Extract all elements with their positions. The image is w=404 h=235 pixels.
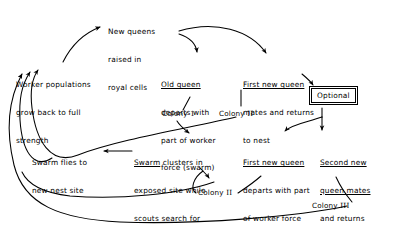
colony-3-word: Colony bbox=[312, 201, 338, 210]
first-queen-departs-line-1: First new queen bbox=[243, 158, 317, 167]
colony-1-numeral: 1 bbox=[190, 109, 195, 118]
node-second-new-queen-mates: Second new queen mates and returns to ne… bbox=[320, 140, 371, 235]
worker-populations-line-2: grow back to full bbox=[16, 108, 91, 117]
worker-populations-line-1: Worker populations bbox=[16, 80, 91, 89]
second-queen-line-3: and returns bbox=[320, 214, 371, 223]
new-queens-line-1: New queens bbox=[108, 27, 155, 36]
first-queen-mates-line-2: mates and returns bbox=[243, 108, 314, 117]
optional-badge[interactable]: Optional bbox=[309, 86, 358, 105]
colony-2-bottom-word: Colony bbox=[198, 188, 224, 197]
swarm-clusters-underline: Swarm bbox=[134, 158, 160, 167]
swarm-clusters-line-1: Swarm clusters in bbox=[134, 158, 206, 167]
first-queen-departs-line-2: departs with part bbox=[243, 186, 317, 195]
colony-2-top-numeral: II bbox=[247, 109, 253, 118]
edge-newqueens-to-firstqueenmates bbox=[179, 27, 266, 53]
second-queen-line-2: queen mates bbox=[320, 186, 371, 195]
new-queens-line-3: royal cells bbox=[108, 83, 155, 92]
node-first-new-queen-departs: First new queen departs with part of wor… bbox=[243, 140, 317, 235]
swarm-flies-line-1: Swarm flies to bbox=[32, 158, 87, 167]
colony-1-word: Colony bbox=[162, 109, 188, 118]
colony-2-bottom-numeral: II bbox=[226, 188, 232, 197]
swarm-clusters-line-3: scouts search for bbox=[134, 214, 206, 223]
first-queen-mates-line-1: First new queen bbox=[243, 80, 314, 89]
swarm-clusters-line-2: exposed site while bbox=[134, 186, 206, 195]
colony-label-2-bottom: Colony II bbox=[198, 189, 232, 198]
new-queens-line-2: raised in bbox=[108, 55, 155, 64]
node-swarm-flies: Swarm flies to new nest site bbox=[32, 140, 87, 214]
old-queen-line-1: Old queen bbox=[161, 80, 216, 89]
edge-workers-to-newqueens bbox=[63, 27, 100, 62]
swarm-flies-line-2: new nest site bbox=[32, 186, 87, 195]
colony-label-1: Colony 1 bbox=[162, 110, 195, 119]
colony-label-2-top: Colony II bbox=[219, 110, 253, 119]
colony-3-numeral: III bbox=[340, 201, 349, 210]
colony-label-3: Colony III bbox=[312, 202, 349, 211]
node-swarm-clusters: Swarm clusters in exposed site while sco… bbox=[134, 140, 206, 235]
second-queen-line-1: Second new bbox=[320, 158, 371, 167]
colony-cycle-diagram: New queens raised in royal cells Worker … bbox=[0, 0, 404, 235]
first-queen-departs-line-3: of worker force bbox=[243, 214, 317, 223]
optional-badge-label: Optional bbox=[311, 88, 356, 103]
colony-2-top-word: Colony bbox=[219, 109, 245, 118]
edge-newqueens-to-oldqueen bbox=[179, 34, 197, 52]
node-new-queens-raised: New queens raised in royal cells bbox=[108, 9, 155, 110]
